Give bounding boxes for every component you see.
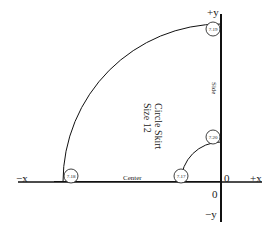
neg-y-label: −y [205, 208, 217, 220]
svg-text:7.19: 7.19 [209, 27, 218, 32]
side-label: Side [210, 82, 218, 94]
point-7-20: 7.20 [206, 130, 220, 144]
origin-x-label: 0 [224, 172, 230, 184]
svg-text:7.20: 7.20 [209, 135, 218, 140]
circle-skirt-diagram: 7.19 7.20 7.17 7.18 +y −y +x −x 0 0 Cent… [0, 0, 276, 234]
pos-y-label: +y [207, 6, 219, 18]
svg-text:7.18: 7.18 [67, 174, 76, 179]
neg-x-label: −x [16, 172, 28, 184]
origin-y-label: 0 [212, 188, 218, 200]
point-7-18: 7.18 [64, 169, 78, 183]
svg-text:7.17: 7.17 [177, 174, 186, 179]
pos-x-label: +x [250, 172, 262, 184]
subtitle-label: Size 12 [142, 103, 153, 133]
title-label: Circle Skirt [153, 103, 164, 150]
point-7-19: 7.19 [206, 22, 220, 36]
outer-hem-arc [63, 24, 221, 182]
point-7-17: 7.17 [174, 169, 188, 183]
center-label: Center [123, 174, 142, 182]
